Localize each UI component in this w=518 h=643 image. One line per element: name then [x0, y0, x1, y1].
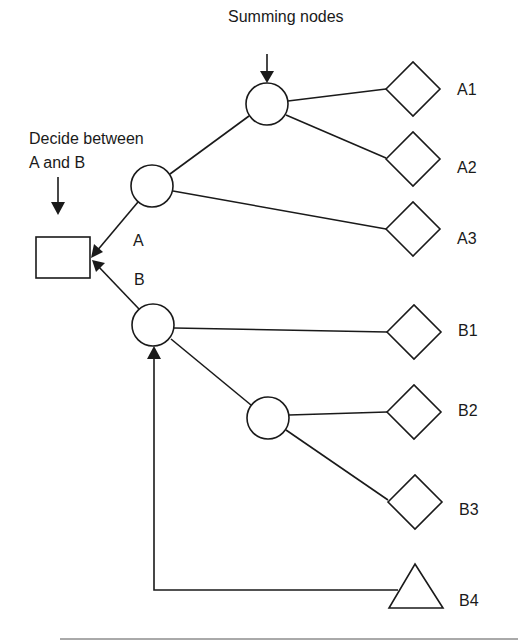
edge-chance-a-to-a3	[173, 191, 386, 229]
edge-sub-to-b3	[286, 430, 388, 500]
edge-sub-to-a2	[286, 115, 386, 158]
edge-a-to-decision	[96, 202, 138, 252]
decision-node-rectangle[interactable]	[36, 237, 90, 278]
outcome-a3-diamond[interactable]	[386, 202, 440, 256]
decide-annotation-line2: A and B	[29, 154, 85, 171]
edge-b-to-decision	[97, 265, 139, 309]
edge-sub-to-a1	[288, 89, 386, 101]
decide-arrowhead-icon	[51, 202, 65, 215]
outcome-label-a3: A3	[457, 230, 477, 247]
outcome-label-a1: A1	[457, 81, 477, 98]
edge-b4-arrowhead-icon	[147, 346, 161, 359]
chance-node-b[interactable]	[132, 304, 174, 346]
edge-chance-b-to-b1	[174, 328, 387, 332]
outcome-label-b4: B4	[459, 592, 479, 609]
decision-tree-diagram: Summing nodes Decide between A and B A B…	[0, 0, 518, 643]
edge-b4-to-chance-b	[154, 355, 398, 590]
branch-label-b: B	[134, 271, 145, 288]
outcome-label-b2: B2	[458, 402, 478, 419]
outcome-label-b3: B3	[459, 501, 479, 518]
branch-label-a: A	[133, 232, 144, 249]
outcome-label-a2: A2	[457, 159, 477, 176]
edge-chance-b-to-sub	[171, 339, 251, 405]
outcome-b1-diamond[interactable]	[387, 305, 441, 359]
outcome-a2-diamond[interactable]	[386, 132, 440, 186]
summing-nodes-arrowhead-icon	[260, 71, 274, 83]
edge-chance-a-to-sub	[170, 116, 249, 174]
outcome-label-b1: B1	[458, 322, 478, 339]
summing-node-a[interactable]	[246, 83, 288, 125]
decide-annotation-line1: Decide between	[29, 130, 144, 147]
summing-node-b[interactable]	[247, 397, 289, 439]
outcome-a1-diamond[interactable]	[386, 62, 440, 116]
outcome-b4-triangle[interactable]	[389, 564, 443, 608]
outcome-b3-diamond[interactable]	[388, 475, 442, 529]
edge-sub-to-b2	[289, 412, 387, 415]
summing-nodes-annotation: Summing nodes	[228, 8, 344, 25]
outcome-b2-diamond[interactable]	[387, 385, 441, 439]
chance-node-a[interactable]	[131, 165, 173, 207]
